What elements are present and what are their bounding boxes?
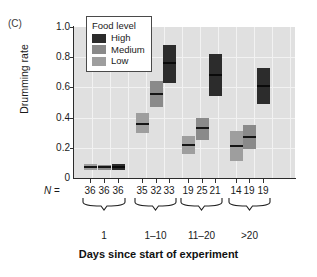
x-tick-mark <box>156 179 157 183</box>
y-tick-label: 0.6 <box>44 81 70 92</box>
n-value: 21 <box>207 185 223 196</box>
x-tick-mark <box>169 179 170 183</box>
grid-line-vertical <box>218 27 219 178</box>
median-line <box>136 123 149 125</box>
box-high-group-3 <box>209 54 222 96</box>
legend-item-high: High <box>92 33 145 43</box>
x-tick-mark <box>142 179 143 183</box>
box-low-group-2 <box>136 113 149 133</box>
legend-title: Food level <box>92 20 145 31</box>
group-label: >20 <box>208 230 291 241</box>
y-axis-title: Drumming rate <box>18 19 30 139</box>
legend-swatch-icon <box>92 34 106 43</box>
x-tick-mark <box>118 179 119 183</box>
median-line <box>230 145 243 147</box>
median-line <box>84 166 97 168</box>
legend-item-label: Medium <box>111 45 145 55</box>
y-tick-label: 0.2 <box>44 142 70 153</box>
group-brace <box>82 198 126 211</box>
n-equals-sign: = <box>51 185 60 196</box>
box-low-group-3 <box>182 136 195 154</box>
box-medium-group-1 <box>98 165 111 170</box>
median-line <box>209 74 222 76</box>
legend-items: HighMediumLow <box>92 33 145 66</box>
legend: Food level HighMediumLow <box>86 16 152 72</box>
n-value: 36 <box>110 185 126 196</box>
y-axis-line <box>73 26 74 179</box>
y-tick-label: 0.8 <box>44 51 70 62</box>
box-low-group-4 <box>230 131 243 161</box>
group-brace <box>180 198 223 211</box>
box-medium-group-3 <box>196 118 209 141</box>
n-row-label: N = <box>44 185 60 196</box>
box-medium-group-2 <box>150 81 163 107</box>
grid-line-vertical <box>272 27 273 178</box>
x-tick-mark <box>263 179 264 183</box>
y-tick-label: 0.4 <box>44 112 70 123</box>
legend-swatch-icon <box>92 57 106 66</box>
median-line <box>243 136 256 138</box>
grid-line-vertical <box>200 27 201 178</box>
x-tick-mark <box>90 179 91 183</box>
grid-line-vertical <box>290 27 291 178</box>
y-tick-label: 1.0 <box>44 21 70 32</box>
figure-panel-c: (C) Drumming rate 1.00.80.60.40.20 Food … <box>0 0 317 277</box>
box-high-group-1 <box>112 164 125 169</box>
legend-item-label: Low <box>111 56 128 66</box>
box-low-group-1 <box>84 164 97 170</box>
median-line <box>257 85 270 87</box>
y-tick-label: 0 <box>44 172 70 183</box>
x-axis-title: Days since start of experiment <box>0 248 317 260</box>
legend-item-label: High <box>111 33 131 43</box>
x-tick-mark <box>104 179 105 183</box>
grid-line-vertical <box>182 27 183 178</box>
median-line <box>182 144 195 146</box>
median-line <box>98 166 111 168</box>
median-line <box>163 62 176 64</box>
x-tick-mark <box>202 179 203 183</box>
group-brace <box>228 198 271 211</box>
x-tick-mark <box>249 179 250 183</box>
box-medium-group-4 <box>243 125 256 149</box>
n-value: 19 <box>255 185 271 196</box>
box-high-group-2 <box>163 45 176 83</box>
x-tick-mark <box>236 179 237 183</box>
legend-item-low: Low <box>92 56 145 66</box>
median-line <box>150 93 163 95</box>
group-brace <box>134 198 177 211</box>
grid-line-vertical <box>254 27 255 178</box>
n-value: 33 <box>161 185 177 196</box>
legend-swatch-icon <box>92 45 106 54</box>
box-high-group-4 <box>257 68 270 104</box>
legend-item-medium: Medium <box>92 45 145 55</box>
median-line <box>112 166 125 168</box>
x-tick-mark <box>188 179 189 183</box>
median-line <box>196 127 209 129</box>
grid-line-horizontal <box>74 118 295 119</box>
x-tick-mark <box>215 179 216 183</box>
